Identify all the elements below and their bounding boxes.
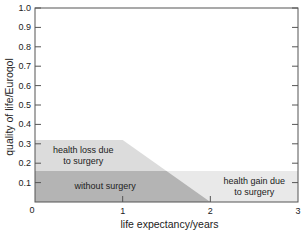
y-tick-label: 0.9	[18, 22, 31, 32]
chart: health gain dueto surgeryhealth loss due…	[0, 0, 304, 233]
y-tick-label: 0.3	[18, 139, 31, 149]
region-label-line: health loss due	[53, 145, 114, 155]
y-tick-label: 0.4	[18, 119, 31, 129]
y-tick-label: 0.7	[18, 61, 31, 71]
y-tick-label: 0.2	[18, 158, 31, 168]
region-label-line: without surgery	[74, 181, 137, 191]
x-tick-label: 1	[120, 206, 125, 216]
y-tick-label: 1.0	[18, 3, 31, 13]
region-label-without-surgery: without surgery	[74, 181, 137, 191]
y-axis-label: quality of life/Euroqol	[3, 58, 15, 155]
y-tick-label: 0.5	[18, 100, 31, 110]
x-axis-label: life expectancy/years	[120, 218, 218, 230]
x-tick-label: 3	[295, 206, 300, 216]
region-label-line: to surgery	[63, 156, 104, 166]
region-label-line: to surgery	[234, 187, 275, 197]
y-tick-label: 0.6	[18, 81, 31, 91]
x-tick-label: 0	[29, 205, 34, 215]
region-label-line: health gain due	[223, 176, 285, 186]
y-tick-label: 0.1	[18, 178, 31, 188]
x-tick-label: 2	[208, 206, 213, 216]
y-tick-label: 0.8	[18, 42, 31, 52]
